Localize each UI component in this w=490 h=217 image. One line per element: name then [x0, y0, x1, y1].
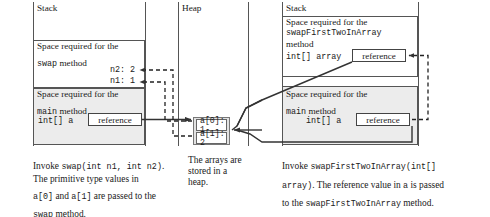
caption-left-line2: The primitive type values in — [33, 174, 193, 185]
caption-left-l3-mono-a: a[0] — [33, 192, 53, 202]
caption-right-line2: array). The reference value in a is pass… — [282, 174, 482, 193]
stack-left-title: Stack — [37, 4, 57, 14]
ref-cell-main-left: reference — [88, 113, 142, 126]
heap-panel-right-border — [248, 2, 249, 146]
frame-swapfirst-method-name: swapFirstTwoInArray — [286, 29, 382, 38]
caption-right-l1a: Invoke — [282, 161, 310, 171]
caption-left-l1-mono: swap(int n1, int n2) — [61, 162, 162, 172]
caption-middle-line2: stored in a — [188, 166, 260, 177]
ref-cell-main-right: reference — [356, 113, 410, 126]
frame-swap-method-word: method — [57, 58, 87, 68]
var-n2: n2: 2 — [110, 66, 135, 75]
frame-main-right-method-name: main — [286, 107, 306, 117]
frame-main-right-var-decl: int[] a — [306, 117, 341, 126]
frame-main-left-line1: Space required for the — [37, 90, 118, 100]
heap-title: Heap — [182, 4, 201, 14]
caption-left-l3-mid: and — [53, 191, 71, 201]
caption-left-l1b: . — [162, 161, 164, 171]
heap-panel-left-border — [178, 2, 179, 146]
caption-right-l2-mono: array) — [282, 181, 312, 191]
frame-swap-line1: Space required for the — [37, 42, 118, 52]
stack-right-title: Stack — [286, 4, 306, 14]
caption-left-l4-end: method. — [53, 209, 86, 217]
dashed-a1-to-n2 — [140, 70, 192, 136]
caption-left-l3-end: are passed to the — [91, 191, 156, 201]
heap-cell-a1: a[1]: 2 — [196, 132, 227, 144]
caption-left-l4-mono: swap — [33, 210, 53, 217]
ref-cell-swapfirst: reference — [352, 49, 406, 62]
caption-left-l1a: Invoke — [33, 161, 61, 171]
caption-right-l1-mono: swapFirstTwoInArray(int[] — [310, 162, 436, 172]
caption-left-line3: a[0] and a[1] are passed to the — [33, 185, 193, 204]
caption-left-l3-mono-b: a[1] — [71, 192, 91, 202]
caption-left-line4: swap method. — [33, 203, 193, 217]
caption-middle-line3: heap. — [188, 177, 260, 188]
figure-canvas: Stack Space required for the swap method… — [0, 0, 490, 217]
caption-right-line1: Invoke swapFirstTwoInArray(int[] — [282, 155, 482, 174]
var-n1: n1: 1 — [110, 77, 135, 86]
dashed-a0-to-n1 — [140, 82, 192, 121]
caption-middle-line1: The arrays are — [188, 155, 260, 166]
frame-swapfirst-line1: Space required for the — [286, 18, 367, 28]
caption-left: Invoke swap(int n1, int n2). The primiti… — [33, 155, 193, 217]
frame-main-left-method-word: method — [57, 106, 87, 116]
frame-main-right-line1: Space required for the — [286, 90, 367, 100]
caption-right-line3: to the swapFirstTwoInArray method. — [282, 192, 482, 211]
caption-right-l2-end: is passed — [408, 180, 444, 190]
frame-swapfirst-var-decl: int[] array — [286, 53, 341, 62]
caption-right-l2-rest: . The reference value in — [312, 180, 403, 190]
caption-right: Invoke swapFirstTwoInArray(int[] array).… — [282, 155, 482, 211]
frame-swap-line2: swap method — [37, 53, 87, 70]
frame-main-left-var-decl: int[] a — [38, 117, 73, 126]
frame-main-right-method-word: method — [306, 106, 336, 116]
heap-array-object: a[0]: 1 a[1]: 2 — [193, 117, 230, 145]
stack-left-panel-right-border — [145, 2, 146, 146]
frame-swapfirst-line3: method — [286, 40, 314, 50]
stack-right-panel-right-border — [418, 2, 419, 146]
caption-right-l3-end: method. — [401, 198, 434, 208]
caption-right-l3a: to the — [282, 198, 305, 208]
caption-right-l3-mono: swapFirstTwoInArray — [305, 199, 401, 209]
caption-left-line1: Invoke swap(int n1, int n2). — [33, 155, 193, 174]
frame-swap-method-name: swap — [37, 59, 57, 69]
caption-middle: The arrays are stored in a heap. — [188, 155, 260, 188]
